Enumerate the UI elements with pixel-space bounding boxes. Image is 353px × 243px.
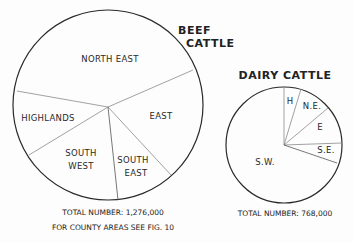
beef-title-line2: CATTLE xyxy=(186,37,235,50)
county-areas-note: FOR COUNTY AREAS SEE FIG. 10 xyxy=(52,223,174,232)
dairy-cattle-pie: H N.E. E S.E. S.W. DAIRY CATTLE TOTAL NU… xyxy=(226,69,342,218)
beef-label-north-east: NORTH EAST xyxy=(81,54,139,64)
beef-label-south-west-1: SOUTH xyxy=(65,148,96,158)
beef-divider-ne-east xyxy=(108,70,193,107)
dairy-label-se: S.E. xyxy=(317,145,334,155)
beef-divider-highlands-ne xyxy=(17,91,108,107)
dairy-label-ne: N.E. xyxy=(303,101,321,111)
beef-divider-se-sw xyxy=(108,107,118,200)
cattle-pie-charts: NORTH EAST EAST HIGHLANDS SOUTH WEST SOU… xyxy=(0,0,353,243)
beef-label-south-east-2: EAST xyxy=(125,168,148,178)
beef-label-highlands: HIGHLANDS xyxy=(21,113,75,123)
dairy-total-number: TOTAL NUMBER: 768,000 xyxy=(237,209,333,218)
beef-total-number: TOTAL NUMBER: 1,276,000 xyxy=(61,208,164,217)
dairy-label-sw: S.W. xyxy=(255,157,274,167)
dairy-label-e: E xyxy=(317,122,323,132)
dairy-label-h: H xyxy=(287,96,294,106)
dairy-title: DAIRY CATTLE xyxy=(239,69,332,82)
beef-title-line1: BEEF xyxy=(178,24,211,37)
beef-label-east: EAST xyxy=(150,111,173,121)
beef-pie-outline xyxy=(13,10,203,200)
beef-label-south-east-1: SOUTH xyxy=(117,155,148,165)
beef-label-south-west-2: WEST xyxy=(68,161,94,171)
beef-cattle-pie: NORTH EAST EAST HIGHLANDS SOUTH WEST SOU… xyxy=(13,10,235,232)
